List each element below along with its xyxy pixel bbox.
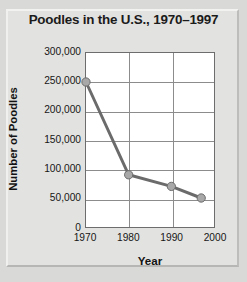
y-tick-label: 150,000 [19, 134, 81, 145]
y-tick-label: 100,000 [19, 163, 81, 174]
data-point-marker [82, 78, 90, 86]
y-tick-label: 0 [19, 222, 81, 233]
data-point-marker [167, 182, 175, 190]
data-point-marker [125, 171, 133, 179]
x-axis-title: Year [85, 254, 215, 267]
y-axis-title: Number of Poodles [7, 79, 19, 199]
series-polyline [86, 82, 201, 198]
series-markers [82, 78, 205, 202]
x-tick-label: 1990 [150, 232, 194, 243]
x-tick-label: 2000 [193, 232, 237, 243]
plot-area [85, 52, 215, 228]
data-series-line [86, 53, 214, 227]
y-tick-label: 300,000 [19, 46, 81, 57]
y-tick-label: 50,000 [19, 192, 81, 203]
x-tick-label: 1980 [106, 232, 150, 243]
y-tick-label: 250,000 [19, 75, 81, 86]
chart-figure: Poodles in the U.S., 1970–1997 Number of… [0, 0, 247, 282]
y-tick-label: 200,000 [19, 104, 81, 115]
chart-title: Poodles in the U.S., 1970–1997 [0, 12, 247, 27]
data-point-marker [197, 194, 205, 202]
x-tick-label: 1970 [63, 232, 107, 243]
